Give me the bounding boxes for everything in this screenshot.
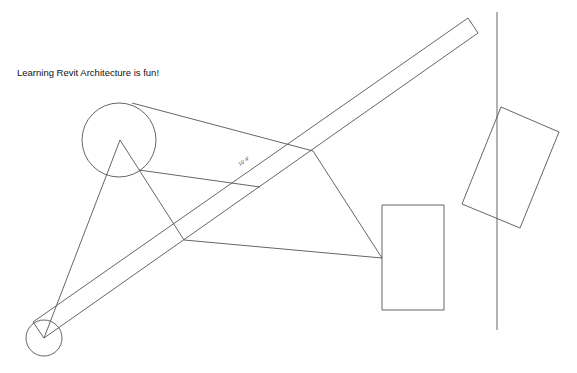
triangle-left-edge[interactable] (44, 140, 120, 338)
drawing-svg (0, 0, 577, 373)
wall-band-end[interactable] (468, 18, 478, 33)
triangle-right-edge[interactable] (120, 140, 184, 240)
wall-band-lower-edge[interactable] (44, 33, 478, 338)
drawing-canvas[interactable]: Learning Revit Architecture is fun! 10' … (0, 0, 577, 373)
text-note[interactable]: Learning Revit Architecture is fun! (17, 67, 159, 78)
wall-band-start[interactable] (33, 322, 44, 338)
large-circle[interactable] (82, 103, 156, 177)
upright-rectangle[interactable] (382, 205, 444, 310)
rotated-rectangle[interactable] (462, 107, 559, 228)
connector-line-middle[interactable] (139, 170, 260, 187)
tangent-line-top[interactable] (132, 103, 313, 151)
edge-to-rectangle-lower[interactable] (184, 240, 382, 258)
edge-to-rectangle-upper[interactable] (313, 151, 382, 258)
wall-band-upper-edge[interactable] (33, 18, 468, 322)
